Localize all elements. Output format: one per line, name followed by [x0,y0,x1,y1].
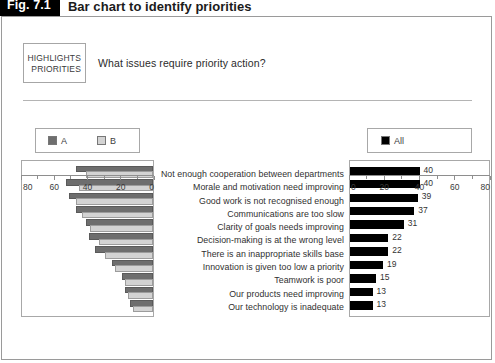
legend-left: A B [35,128,140,153]
bar-b [82,212,153,219]
bar-all [350,301,373,309]
legend-swatch-b [97,136,106,145]
bar-value-label: 22 [392,232,401,242]
bar-value-label: 37 [418,205,427,215]
question-row: HIGHLIGHTS PRIORITIES What issues requir… [2,43,491,87]
category-label: Decision-making is at the wrong level [154,234,349,246]
axis-left-labels: 806040200 [21,181,154,193]
bar-value-label: 19 [387,259,396,269]
bar-all [350,167,420,175]
figure-number: Fig. 7.1 [0,0,60,16]
bar-row [22,246,153,258]
legend-label-all: All [394,136,404,146]
bar-all [350,288,373,296]
category-label: Innovation is given too low a priority [154,261,349,273]
bar-b [128,292,153,299]
figure-title: Bar chart to identify priorities [68,0,252,14]
bar-b [105,252,153,259]
category-label: Not enough cooperation between departmen… [154,168,349,180]
axis-tick [87,176,88,180]
bar-b [90,225,153,232]
axis-tick [454,176,455,180]
bar-all [350,220,404,228]
axis-tick [472,176,473,179]
axis-tick [366,176,367,179]
bar-row: 22 [350,246,489,258]
bar-value-label: 31 [408,218,417,228]
legend-swatch-a [48,136,57,145]
axis-tick [54,176,55,180]
bar-row: 19 [350,259,489,271]
survey-question: What issues require priority action? [98,57,266,69]
bar-value-label: 22 [392,245,401,255]
bar-all [350,234,388,242]
bar-all [350,247,388,255]
legend-item-a: A [48,136,67,146]
bar-all [350,274,376,282]
axis-tick [384,176,385,180]
bar-row [22,286,153,298]
bar-row [22,259,153,271]
bar-value-label: 13 [377,286,386,296]
bar-row [22,273,153,285]
legend-swatch-all [381,136,390,145]
figure-panel: HIGHLIGHTS PRIORITIES What issues requir… [1,16,492,360]
category-label: Morale and motivation need improving [154,181,349,193]
axis-tick-label: 80 [481,182,490,192]
axis-tick [21,176,22,180]
axis-tick [437,176,438,179]
category-label: Our technology is inadequate [154,301,349,313]
highlights-callout: HIGHLIGHTS PRIORITIES [23,43,86,83]
bar-value-label: 15 [380,272,389,282]
bar-row: 15 [350,273,489,285]
axis-tick [419,176,420,180]
axis-tick [401,176,402,179]
legend-right: All [367,128,472,153]
bar-value-label: 40 [424,165,433,175]
category-label: Clarity of goals needs improving [154,221,349,233]
bar-row [22,219,153,231]
header-divider [23,100,472,101]
axis-tick-label: 80 [23,182,32,192]
axis-tick-label: 40 [415,182,424,192]
category-label: There is an inappropriate skills base [154,248,349,260]
bar-b [99,239,153,246]
axis-tick-label: 20 [380,182,389,192]
axis-tick-label: 60 [50,182,59,192]
axis-tick [154,176,155,180]
category-label: Teamwork is poor [154,274,349,286]
axis-tick [70,176,71,179]
legend-label-b: B [110,136,116,146]
axis-tick [349,176,350,180]
figure-header: Fig. 7.1 Bar chart to identify prioritie… [0,0,252,16]
axis-tick-label: 0 [351,182,356,192]
bar-row [22,232,153,244]
category-label-column: Not enough cooperation between departmen… [154,164,349,313]
callout-line-1: HIGHLIGHTS [28,53,81,63]
axis-tick [37,176,38,179]
bar-row: 31 [350,219,489,231]
axis-tick [120,176,121,180]
bar-row: 22 [350,232,489,244]
axis-right-labels: 020406080 [349,181,490,193]
bar-all [350,261,383,269]
axis-right: 020406080 [349,175,490,195]
legend-item-b: B [97,136,116,146]
axis-tick [137,176,138,179]
legend-label-a: A [61,136,67,146]
bar-all [350,207,414,215]
bar-value-label: 13 [377,299,386,309]
category-label: Our products need improving [154,288,349,300]
bar-row: 37 [350,205,489,217]
axis-tick [104,176,105,179]
category-label: Communications are too slow [154,208,349,220]
axis-tick-label: 20 [116,182,125,192]
axis-tick-label: 0 [149,182,154,192]
legend-item-all: All [381,136,404,146]
bar-row: 13 [350,300,489,312]
callout-line-2: PRIORITIES [31,64,81,74]
axis-tick-label: 60 [450,182,459,192]
bar-b [133,306,153,313]
axis-left: 806040200 [21,175,154,195]
axis-tick [490,176,491,180]
